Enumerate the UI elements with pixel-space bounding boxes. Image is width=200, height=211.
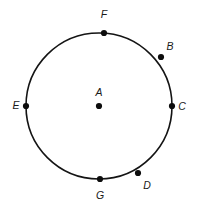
point-dot-E — [23, 103, 29, 109]
point-label-F: F — [101, 8, 108, 20]
point-label-D: D — [143, 179, 151, 191]
point-dot-D — [135, 170, 141, 176]
point-group-G: G — [96, 176, 104, 201]
point-group-F: F — [101, 8, 108, 36]
point-group-A: A — [94, 86, 102, 109]
circle-diagram-figure: A B C D E F G — [0, 0, 200, 211]
point-dot-B — [158, 54, 164, 60]
point-dot-C — [169, 103, 175, 109]
point-group-B: B — [158, 40, 174, 60]
point-label-C: C — [178, 100, 186, 112]
point-dot-A — [96, 103, 102, 109]
point-label-A: A — [94, 86, 102, 98]
point-group-D: D — [135, 170, 151, 191]
diagram-canvas: A B C D E F G — [0, 0, 200, 211]
point-label-G: G — [96, 189, 104, 201]
point-dot-F — [101, 30, 107, 36]
point-label-B: B — [166, 40, 173, 52]
point-label-E: E — [12, 99, 20, 111]
point-dot-G — [97, 176, 103, 182]
